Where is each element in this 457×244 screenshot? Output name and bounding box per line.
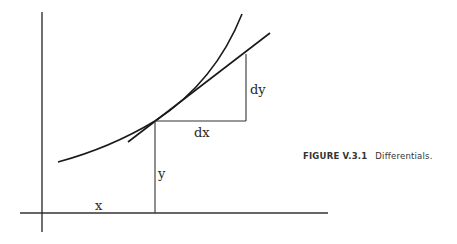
differentials-diagram: dy dx y x xyxy=(0,0,457,244)
label-dy: dy xyxy=(250,82,266,97)
figure-title: Differentials. xyxy=(375,151,432,161)
function-curve xyxy=(58,14,242,162)
figure-number: FIGURE V.3.1 xyxy=(303,151,367,161)
label-y: y xyxy=(157,166,166,181)
label-x: x xyxy=(95,198,103,213)
figure-caption: FIGURE V.3.1Differentials. xyxy=(303,151,433,161)
label-dx: dx xyxy=(194,125,210,140)
